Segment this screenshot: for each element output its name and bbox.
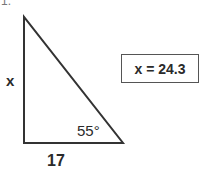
angle-label: 55° — [77, 122, 100, 139]
right-triangle — [0, 0, 203, 176]
side-label-x: x — [6, 72, 14, 89]
answer-text: x = 24.3 — [135, 61, 186, 77]
side-label-base: 17 — [47, 152, 65, 170]
answer-box: x = 24.3 — [121, 54, 199, 83]
